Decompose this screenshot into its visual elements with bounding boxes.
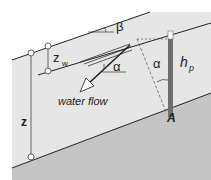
zw-label: z (53, 50, 60, 65)
z-label: z (21, 115, 27, 129)
hp-label-subscript: p (188, 63, 194, 73)
point-a-label: A (166, 111, 176, 125)
water-flow-label: water flow (58, 95, 109, 107)
z-bottom-node (28, 154, 34, 160)
beta-label: β (116, 19, 123, 34)
alpha-flow-label: α (113, 59, 121, 74)
alpha-piezo-label: α (153, 56, 161, 71)
piezometer-tube-empty (168, 31, 173, 39)
zw-label-subscript: w (61, 59, 68, 68)
hp-label: h (180, 54, 188, 70)
zw-bottom-node (45, 68, 51, 74)
z-top-node (28, 50, 34, 56)
zw-top-node (45, 43, 51, 49)
infinite-slope-diagram: β z w α α h p water flow z A (0, 0, 211, 180)
piezometer-water-column (168, 39, 173, 117)
